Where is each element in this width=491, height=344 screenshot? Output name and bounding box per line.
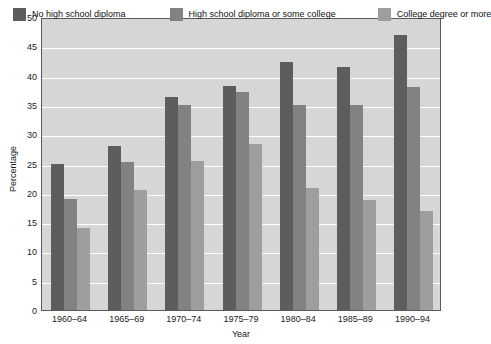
- bar[interactable]: [249, 144, 262, 310]
- bar[interactable]: [280, 62, 293, 310]
- legend-label: No high school diploma: [32, 9, 126, 19]
- bar[interactable]: [350, 105, 363, 310]
- y-axis-tick: 15: [0, 218, 37, 228]
- x-axis-tick: 1985–89: [338, 314, 373, 324]
- x-axis-tick: 1970–74: [166, 314, 201, 324]
- bar[interactable]: [191, 161, 204, 310]
- bar[interactable]: [363, 200, 376, 310]
- legend-swatch-icon: [170, 8, 183, 21]
- legend-label: College degree or more: [397, 9, 491, 19]
- bar[interactable]: [306, 188, 319, 310]
- bar-group: [223, 19, 262, 310]
- legend: No high school diplomaHigh school diplom…: [7, 3, 454, 25]
- y-axis-tick: 30: [0, 130, 37, 140]
- bar[interactable]: [165, 97, 178, 310]
- y-axis-tick: 40: [0, 72, 37, 82]
- x-axis-tick: 1975–79: [223, 314, 258, 324]
- bar[interactable]: [337, 67, 350, 310]
- x-axis-tick: 1960–64: [52, 314, 87, 324]
- y-axis-tick: 5: [0, 277, 37, 287]
- y-axis: 50454035302520151050: [0, 0, 37, 344]
- y-axis-tick: 25: [0, 160, 37, 170]
- y-axis-tick: 45: [0, 42, 37, 52]
- bar[interactable]: [178, 105, 191, 310]
- bar-group: [165, 19, 204, 310]
- bar-group: [394, 19, 433, 310]
- y-axis-title: Percentage: [8, 134, 18, 204]
- bar[interactable]: [394, 35, 407, 310]
- bar[interactable]: [77, 228, 90, 310]
- x-axis-tick: 1990–94: [395, 314, 430, 324]
- bar[interactable]: [134, 190, 147, 310]
- legend-item[interactable]: College degree or more: [378, 8, 491, 21]
- plot-area: [41, 18, 441, 311]
- y-axis-tick: 0: [0, 306, 37, 316]
- bar[interactable]: [64, 199, 77, 310]
- bar[interactable]: [121, 162, 134, 310]
- x-axis-tick: 1980–84: [281, 314, 316, 324]
- legend-item[interactable]: No high school diploma: [13, 8, 126, 21]
- x-axis-tick: 1965–69: [109, 314, 144, 324]
- bar-group: [337, 19, 376, 310]
- bar[interactable]: [223, 86, 236, 310]
- bar[interactable]: [420, 211, 433, 310]
- x-axis-title: Year: [41, 329, 441, 339]
- legend-swatch-icon: [378, 8, 391, 21]
- legend-item[interactable]: High school diploma or some college: [170, 8, 336, 21]
- y-axis-tick: 35: [0, 101, 37, 111]
- y-axis-tick: 10: [0, 247, 37, 257]
- x-axis: 1960–641965–691970–741975–791980–841985–…: [41, 314, 441, 330]
- bars-layer: [42, 19, 440, 310]
- legend-swatch-icon: [13, 8, 26, 21]
- bar[interactable]: [293, 105, 306, 310]
- bar[interactable]: [236, 92, 249, 310]
- bar-group: [108, 19, 147, 310]
- bar-group: [280, 19, 319, 310]
- bar-group: [51, 19, 90, 310]
- y-axis-tick: 20: [0, 189, 37, 199]
- bar[interactable]: [108, 146, 121, 310]
- bar[interactable]: [51, 164, 64, 311]
- legend-label: High school diploma or some college: [189, 9, 336, 19]
- bar[interactable]: [407, 87, 420, 310]
